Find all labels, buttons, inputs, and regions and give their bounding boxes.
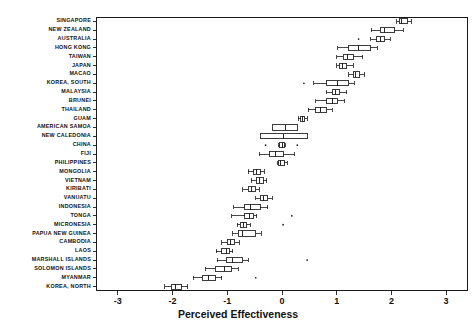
boxplot-item (338, 45, 377, 50)
boxplot-item (327, 90, 347, 95)
outlier-point (291, 215, 293, 217)
x-tick-label: -3 (114, 296, 122, 306)
category-label: MYANMAR (62, 275, 91, 280)
boxplot-item (349, 72, 364, 77)
outlier-point (265, 144, 267, 146)
category-label: MALAYSIA (61, 89, 91, 94)
category-label: TONGA (70, 213, 91, 218)
category-label: AMERICAN SAMOA (37, 125, 91, 130)
boxplot-item (222, 240, 240, 245)
category-label: KIRIBATI (66, 187, 91, 192)
boxplot-item (265, 143, 298, 148)
boxplot-item (237, 222, 284, 227)
category-label: CAMBODIA (59, 240, 91, 245)
x-tick-label: 2 (389, 296, 394, 306)
boxplot-item (337, 63, 353, 68)
boxplot-item (217, 258, 308, 263)
boxplot-item (233, 231, 261, 236)
category-label: THAILAND (61, 107, 91, 112)
category-label: NEW ZEALAND (48, 28, 91, 33)
boxplot-item (234, 204, 268, 209)
category-label: CHINA (73, 142, 91, 147)
category-label: KOREA, NORTH (46, 284, 91, 289)
category-label: MACAO (69, 72, 91, 77)
category-label: MICRONESIA (54, 222, 91, 227)
outlier-point (306, 259, 308, 261)
category-label: PHILIPPINES (55, 160, 91, 165)
boxplot-item (243, 187, 259, 192)
boxplot-item (232, 213, 293, 218)
boxplot-chart: SINGAPORENEW ZEALANDAUSTRALIAHONG KONGTA… (0, 0, 476, 335)
outlier-point (303, 82, 305, 84)
outlier-point (296, 144, 298, 146)
boxplot-item (260, 134, 307, 139)
category-label: HONG KONG (55, 45, 91, 50)
outlier-point (358, 38, 360, 40)
boxplot-item (278, 160, 288, 165)
category-label: FIJI (81, 151, 91, 156)
category-label: JAPAN (72, 63, 91, 68)
x-tick-label: 3 (444, 296, 449, 306)
category-label: VANUATU (64, 195, 91, 200)
boxplot-item (259, 151, 294, 156)
boxplot-item (216, 249, 232, 254)
boxplot-item (165, 284, 188, 289)
boxplot-item (337, 54, 363, 59)
category-label: AUSTRALIA (58, 36, 91, 41)
category-label: PAPUA NEW GUINEA (32, 231, 91, 236)
x-tick-label: -1 (223, 296, 231, 306)
boxplot-item (308, 107, 332, 112)
category-label: VIETNAM (65, 178, 91, 183)
category-label: BRUNEI (69, 98, 91, 103)
boxplot-item (256, 196, 272, 201)
boxplot-item (371, 28, 403, 33)
boxplot-item (248, 169, 264, 174)
x-tick-label: 0 (279, 296, 284, 306)
category-label: NEW CALEDONIA (42, 134, 91, 139)
boxplot-item (316, 98, 344, 103)
category-label: SINGAPORE (56, 19, 91, 24)
category-label: MONGOLIA (59, 169, 91, 174)
category-label: TAIWAN (69, 54, 91, 59)
boxplot-item (358, 37, 391, 42)
outlier-point (282, 224, 284, 226)
boxplot-item (251, 178, 266, 183)
x-axis-title: Perceived Effectiveness (0, 308, 476, 320)
category-label: MARSHALL ISLANDS (32, 257, 91, 262)
category-label: LAOS (75, 249, 91, 254)
category-label: INDONESIA (59, 204, 91, 209)
category-label: SOLOMON ISLANDS (34, 266, 91, 271)
category-label: KOREA, SOUTH (47, 81, 91, 86)
x-tick-label: 1 (334, 296, 339, 306)
boxplot-item (205, 266, 238, 271)
boxplot-item (193, 275, 256, 280)
category-label: GUAM (74, 116, 91, 121)
outlier-point (255, 277, 257, 279)
boxplot-item (272, 125, 297, 130)
boxplot-item (303, 81, 354, 86)
boxplot-item (298, 116, 307, 121)
x-tick-label: -2 (169, 296, 177, 306)
boxplot-item (397, 19, 411, 24)
